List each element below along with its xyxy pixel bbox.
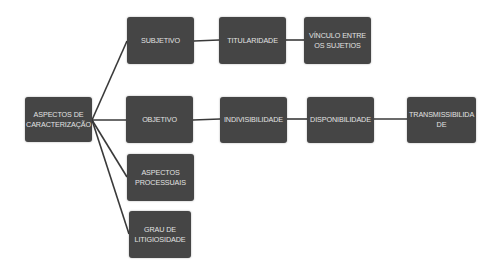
edge-root-subjetivo bbox=[92, 41, 127, 120]
node-label: DISPONIBILIDADE bbox=[310, 115, 371, 125]
edge-objetivo-indivisibilidade bbox=[193, 119, 220, 120]
node-label: SUBJETIVO bbox=[141, 36, 180, 46]
edge-root-litigiosidade bbox=[92, 120, 129, 234]
node-label: TRANSMISSIBILIDA DE bbox=[409, 110, 474, 130]
node-grau-de-litigiosidade: GRAU DE LITIGIOSIDADE bbox=[129, 211, 191, 258]
node-disponibilidade: DISPONIBILIDADE bbox=[307, 97, 374, 143]
node-label: ASPECTOS DE CARACTERIZAÇÃO bbox=[26, 110, 91, 130]
node-label: INDIVISIBILIDADE bbox=[224, 115, 283, 125]
node-subjetivo: SUBJETIVO bbox=[127, 17, 194, 64]
node-aspectos-processuais: ASPECTOS PROCESSUAIS bbox=[127, 154, 194, 201]
node-vinculo-entre-os-sujeitos: VÍNCULO ENTRE OS SUJETIOS bbox=[304, 17, 371, 64]
edge-subjetivo-titularidade bbox=[194, 40, 219, 41]
node-objetivo: OBJETIVO bbox=[126, 96, 193, 143]
node-label: GRAU DE LITIGIOSIDADE bbox=[131, 225, 189, 245]
node-aspectos-de-caracterizacao: ASPECTOS DE CARACTERIZAÇÃO bbox=[25, 97, 92, 142]
node-label: VÍNCULO ENTRE OS SUJETIOS bbox=[306, 31, 369, 51]
node-titularidade: TITULARIDADE bbox=[219, 17, 286, 64]
node-label: OBJETIVO bbox=[142, 115, 177, 125]
node-label: ASPECTOS PROCESSUAIS bbox=[129, 168, 192, 188]
edge-root-processuais bbox=[92, 120, 127, 177]
node-label: TITULARIDADE bbox=[227, 36, 278, 46]
node-indivisibilidade: INDIVISIBILIDADE bbox=[220, 97, 287, 143]
node-transmissibilidade: TRANSMISSIBILIDA DE bbox=[407, 97, 476, 143]
